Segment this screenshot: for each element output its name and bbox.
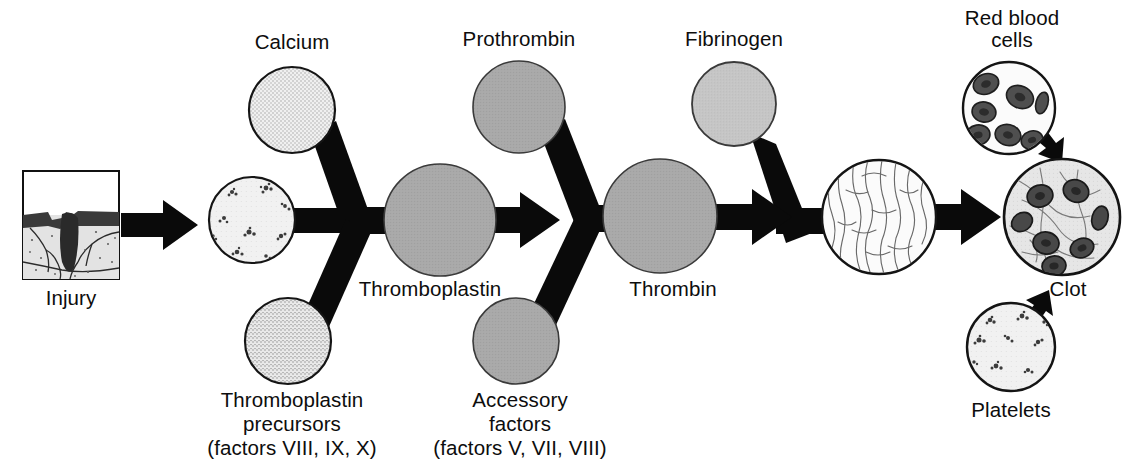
node-platelets-main [209, 177, 295, 263]
node-accessory-factors [473, 298, 559, 384]
node-calcium [249, 67, 335, 153]
node-platelets [967, 303, 1055, 391]
node-thrombin [603, 159, 717, 273]
node-prothrombin [473, 61, 565, 153]
node-injury [23, 171, 119, 279]
arrow-fibrin-to-clot [930, 189, 1001, 245]
node-fibrin [822, 160, 936, 274]
node-thromboplastin [384, 164, 496, 276]
clotting-cascade-diagram: Injury Calcium Thromboplastin precursors… [0, 0, 1135, 462]
arrow-injury-to-platelets [121, 200, 198, 250]
node-red-blood-cells [963, 62, 1055, 154]
cascade-illustration [0, 0, 1135, 462]
node-thromboplastin-precursors [245, 298, 331, 384]
node-fibrinogen [692, 62, 776, 146]
node-clot [1004, 159, 1120, 277]
